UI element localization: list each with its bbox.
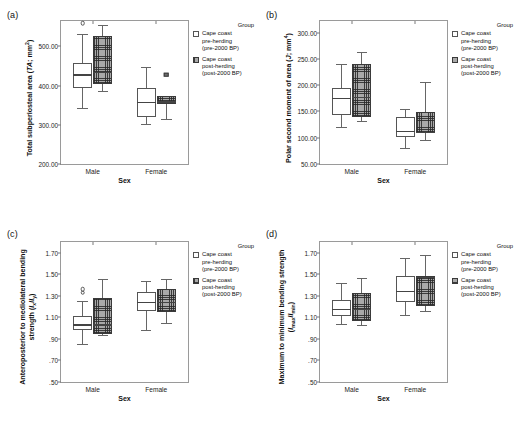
- whisker-upper: [341, 64, 342, 88]
- whisker-cap-lower: [400, 148, 411, 149]
- y-tick-label: 1.30: [46, 292, 61, 299]
- y-tick-label: 1.10: [305, 314, 320, 321]
- x-tick-mark: [415, 242, 416, 245]
- panel-c: (c) Anteroposterior to mediolateral bend…: [0, 219, 259, 437]
- box-male-s0: [332, 88, 351, 115]
- whisker-upper: [405, 109, 406, 117]
- whisker-upper: [146, 67, 147, 88]
- whisker-upper: [166, 279, 167, 290]
- whisker-lower: [166, 104, 167, 119]
- y-tick-label: 50.00: [301, 161, 320, 168]
- legend-item-0: Cape coastpre-herding(pre-2000 BP): [193, 30, 255, 52]
- box-male-s0: [332, 300, 351, 316]
- median-line: [396, 131, 415, 132]
- y-tick-label: 300.00: [38, 121, 61, 128]
- median-line: [416, 277, 435, 278]
- whisker-cap-upper: [357, 52, 368, 53]
- outlier-point: [164, 72, 169, 77]
- x-tick-label: Female: [404, 386, 426, 393]
- whisker-lower: [405, 137, 406, 149]
- whisker-cap-upper: [400, 109, 411, 110]
- whisker-lower: [425, 133, 426, 140]
- x-tick-label: Male: [86, 386, 100, 393]
- median-line: [93, 72, 112, 73]
- whisker-cap-lower: [336, 127, 347, 128]
- legend-item-label: Cape coastpost-herding(post-2000 BP): [461, 56, 514, 78]
- whisker-upper: [425, 82, 426, 112]
- legend-swatch-hatch: [452, 278, 458, 284]
- plot-a: 200.00300.00400.00500.00MaleFemale Sex: [34, 20, 189, 183]
- panel-b: (b) Polar second moment of area (J; mm4)…: [259, 0, 518, 218]
- median-line: [73, 74, 92, 75]
- y-tick-label: 150.00: [297, 108, 320, 115]
- x-tick-label: Male: [345, 386, 359, 393]
- median-line: [416, 132, 435, 133]
- y-axis-label-d: Maximum to minimum bending strength (Ima…: [273, 237, 287, 397]
- y-tick-label: 400.00: [38, 82, 61, 89]
- outlier-point: [80, 290, 85, 295]
- y-tick-label: 100.00: [297, 134, 320, 141]
- box-male-s1: [352, 64, 371, 117]
- whisker-cap-lower: [98, 335, 109, 336]
- median-line: [137, 102, 156, 103]
- x-tick-mark: [351, 21, 352, 24]
- legend-item-0: Cape coastpre-herding(pre-2000 BP): [452, 251, 514, 273]
- boxplot-figure: (a) Total subperiosteal area (TA; mm2) 2…: [0, 0, 519, 437]
- legend-item-label: Cape coastpost-herding(post-2000 BP): [202, 277, 255, 299]
- whisker-cap-upper: [141, 281, 152, 282]
- x-tick-mark: [92, 242, 93, 245]
- whisker-cap-upper: [98, 279, 109, 280]
- legend-item-label: Cape coastpre-herding(pre-2000 BP): [202, 30, 255, 52]
- y-tick-label: 250.00: [297, 55, 320, 62]
- whisker-upper: [82, 301, 83, 316]
- whisker-cap-upper: [336, 283, 347, 284]
- outlier-point: [80, 21, 85, 26]
- x-axis-label-b: Sex: [319, 177, 448, 184]
- y-axis-label-a: Total subperiosteal area (TA; mm2): [14, 18, 28, 178]
- y-tick-label: 200.00: [38, 161, 61, 168]
- whisker-upper: [146, 281, 147, 292]
- median-line: [332, 98, 351, 99]
- plot-area-a: 200.00300.00400.00500.00MaleFemale: [60, 20, 189, 165]
- median-line: [73, 324, 92, 325]
- box-female-s1: [157, 289, 176, 312]
- legend-item-label: Cape coastpost-herding(post-2000 BP): [202, 56, 255, 78]
- whisker-cap-upper: [161, 279, 172, 280]
- box-female-s1: [416, 112, 435, 133]
- whisker-cap-lower: [357, 325, 368, 326]
- whisker-lower: [166, 312, 167, 323]
- whisker-cap-lower: [141, 330, 152, 331]
- median-line: [93, 324, 112, 325]
- whisker-cap-lower: [77, 108, 88, 109]
- whisker-lower: [341, 316, 342, 324]
- whisker-cap-upper: [357, 278, 368, 279]
- legend-item-label: Cape coastpre-herding(pre-2000 BP): [461, 251, 514, 273]
- whisker-cap-upper: [77, 34, 88, 35]
- y-axis-label-b: Polar second moment of area (J; mm4): [273, 18, 287, 178]
- whisker-cap-upper: [77, 301, 88, 302]
- legend-item-0: Cape coastpre-herding(pre-2000 BP): [193, 251, 255, 273]
- whisker-cap-lower: [141, 124, 152, 125]
- y-tick-label: 1.10: [46, 314, 61, 321]
- y-tick-label: .90: [308, 335, 320, 342]
- y-tick-label: 1.50: [46, 271, 61, 278]
- y-tick-label: 1.70: [305, 249, 320, 256]
- whisker-cap-upper: [420, 255, 431, 256]
- y-tick-label: .50: [49, 379, 61, 386]
- y-tick-label: 500.00: [38, 43, 61, 50]
- plot-area-b: 50.00100.00150.00200.00250.00300.00MaleF…: [319, 20, 448, 165]
- whisker-upper: [361, 52, 362, 64]
- legend-swatch-hatch: [452, 57, 458, 63]
- box-female-s0: [396, 117, 415, 136]
- whisker-upper: [82, 34, 83, 64]
- y-tick-label: .90: [49, 335, 61, 342]
- median-line: [332, 309, 351, 310]
- legend-item-label: Cape coastpre-herding(pre-2000 BP): [202, 251, 255, 273]
- legend-d: GroupCape coastpre-herding(pre-2000 BP)C…: [452, 243, 514, 302]
- box-male-s1: [93, 36, 112, 84]
- x-tick-label: Male: [86, 168, 100, 175]
- legend-a: GroupCape coastpre-herding(pre-2000 BP)C…: [193, 22, 255, 81]
- x-axis-label-d: Sex: [319, 395, 448, 402]
- y-tick-label: 1.30: [305, 292, 320, 299]
- median-line: [157, 302, 176, 303]
